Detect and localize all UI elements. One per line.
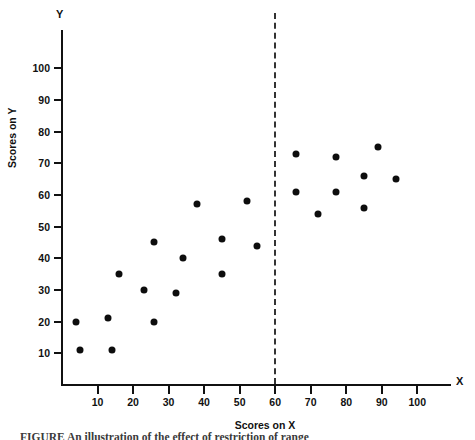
y-tick-label-80: 80 <box>20 126 50 138</box>
x-tick-60 <box>274 385 276 394</box>
data-point <box>332 153 339 160</box>
data-point <box>254 242 261 249</box>
y-tick-10 <box>54 352 63 354</box>
x-tick-label-70: 70 <box>296 396 326 408</box>
y-tick-label-20: 20 <box>20 316 50 328</box>
data-point <box>375 144 382 151</box>
x-tick-label-60: 60 <box>260 396 290 408</box>
y-tick-30 <box>54 289 63 291</box>
data-point <box>218 271 225 278</box>
data-point <box>194 201 201 208</box>
x-tick-label-90: 90 <box>367 396 397 408</box>
x-tick-80 <box>345 385 347 394</box>
x-tick-10 <box>97 385 99 394</box>
data-point <box>115 271 122 278</box>
x-tick-70 <box>310 385 312 394</box>
x-tick-20 <box>132 385 134 394</box>
y-tick-label-10: 10 <box>20 347 50 359</box>
x-tick-label-20: 20 <box>118 396 148 408</box>
data-point <box>151 239 158 246</box>
x-tick-90 <box>381 385 383 394</box>
y-tick-label-60: 60 <box>20 189 50 201</box>
y-tick-label-40: 40 <box>20 252 50 264</box>
y-tick-label-90: 90 <box>20 94 50 106</box>
x-axis-line <box>61 384 451 386</box>
data-point <box>76 347 83 354</box>
data-point <box>243 198 250 205</box>
x-axis-title: Scores on X <box>185 419 345 431</box>
x-tick-100 <box>416 385 418 394</box>
data-point <box>151 318 158 325</box>
figure-caption: FIGURE An illustration of the effect of … <box>20 431 460 440</box>
y-axis-title: Scores on Y <box>6 108 18 169</box>
y-tick-50 <box>54 226 63 228</box>
x-tick-label-50: 50 <box>225 396 255 408</box>
x-tick-label-80: 80 <box>331 396 361 408</box>
x-tick-label-10: 10 <box>83 396 113 408</box>
data-point <box>361 172 368 179</box>
y-axis-line <box>61 30 63 386</box>
data-point <box>361 204 368 211</box>
x-tick-30 <box>168 385 170 394</box>
y-tick-40 <box>54 257 63 259</box>
x-axis-letter: X <box>456 375 464 387</box>
data-point <box>179 255 186 262</box>
data-point <box>108 347 115 354</box>
data-point <box>73 318 80 325</box>
y-tick-100 <box>54 67 63 69</box>
data-point <box>293 150 300 157</box>
x-tick-label-30: 30 <box>154 396 184 408</box>
y-tick-20 <box>54 321 63 323</box>
x-tick-50 <box>239 385 241 394</box>
data-point <box>218 236 225 243</box>
y-tick-70 <box>54 162 63 164</box>
data-point <box>172 290 179 297</box>
x-tick-label-100: 100 <box>402 396 432 408</box>
data-point <box>140 286 147 293</box>
data-point <box>392 176 399 183</box>
scatterplot-figure: Y X 102030405060708090100 10203040506070… <box>0 0 475 440</box>
data-point <box>332 188 339 195</box>
data-point <box>105 315 112 322</box>
y-tick-label-50: 50 <box>20 221 50 233</box>
data-point <box>314 210 321 217</box>
x-tick-40 <box>203 385 205 394</box>
y-tick-label-70: 70 <box>20 157 50 169</box>
x-tick-label-40: 40 <box>189 396 219 408</box>
y-tick-80 <box>54 131 63 133</box>
y-tick-90 <box>54 99 63 101</box>
y-tick-label-100: 100 <box>20 62 50 74</box>
restriction-of-range-cut-line <box>274 13 276 384</box>
data-point <box>293 188 300 195</box>
y-axis-letter: Y <box>56 8 64 20</box>
y-tick-60 <box>54 194 63 196</box>
y-tick-label-30: 30 <box>20 284 50 296</box>
